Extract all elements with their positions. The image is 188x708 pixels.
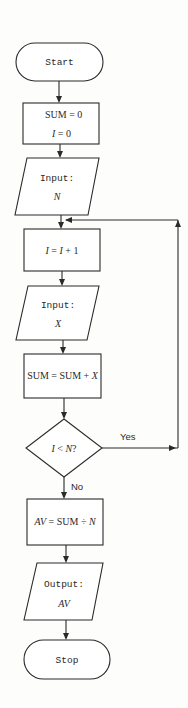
average-process-box: AV = SUM ÷ N — [27, 499, 103, 545]
accumulate-text: SUM = SUM + X — [27, 370, 99, 381]
output-av-parallelogram: Output: AV — [24, 563, 103, 620]
init-i-text: I = 0 — [51, 128, 71, 139]
stop-terminal: Stop — [24, 640, 110, 679]
decision-diamond: I < N? — [26, 419, 102, 477]
input-x-parallelogram: Input: X — [16, 286, 99, 340]
accumulate-process-box: SUM = SUM + X — [24, 354, 101, 398]
connector-input-x-to-accumulate — [60, 340, 66, 354]
flowchart: Start SUM = 0 I = 0 Input: N I = I + 1 — [0, 0, 188, 708]
start-label: Start — [45, 57, 74, 68]
input-n-label: Input: — [40, 173, 74, 184]
input-x-var: X — [54, 318, 62, 329]
input-n-var: N — [53, 191, 62, 202]
output-av-label: Output: — [44, 579, 84, 590]
decision-text: I < N? — [50, 443, 77, 454]
connector-input-n-to-increment — [58, 215, 64, 229]
input-x-label: Input: — [41, 300, 75, 311]
input-n-parallelogram: Input: N — [15, 158, 99, 215]
connector-start-to-init — [56, 81, 62, 103]
connector-average-to-output — [63, 545, 69, 563]
increment-process-box: I = I + 1 — [24, 229, 100, 271]
stop-label: Stop — [56, 655, 79, 666]
init-process-box: SUM = 0 I = 0 — [23, 103, 99, 144]
connector-accumulate-to-decision — [61, 398, 67, 419]
start-terminal: Start — [16, 43, 103, 81]
connector-output-to-stop — [63, 620, 69, 640]
no-branch-connector: No — [61, 477, 83, 499]
average-text: AV = SUM ÷ N — [33, 516, 97, 527]
no-label: No — [71, 481, 83, 492]
yes-branch-connector: Yes — [102, 431, 178, 451]
output-av-var: AV — [57, 598, 72, 609]
init-sum-text: SUM = 0 — [45, 109, 82, 120]
increment-text: I = I + 1 — [45, 245, 79, 256]
yes-label: Yes — [120, 431, 136, 442]
connector-increment-to-input-x — [59, 271, 65, 286]
connector-init-to-input-n — [57, 144, 63, 158]
